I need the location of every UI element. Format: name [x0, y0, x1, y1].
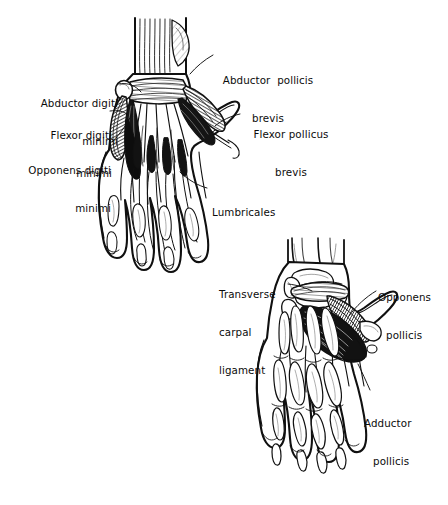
label-line: pollicis	[364, 455, 436, 468]
label-transverse-carpal-ligament: Transverse carpal ligament	[219, 263, 299, 402]
label-line: pollicis	[378, 329, 448, 342]
leader-abductor-pollicis-brevis	[190, 55, 213, 74]
label-line: Flexor pollicus	[243, 128, 339, 141]
label-opponens-pollicis: Opponens pollicis	[378, 266, 448, 367]
label-line: minimi	[8, 202, 111, 215]
label-line: Lumbricales	[212, 206, 302, 219]
label-line: Opponens	[378, 291, 448, 304]
anatomy-figure: Abductor digiti minimi Flexor digiti min…	[0, 0, 448, 505]
label-line: Opponens digiti	[8, 164, 111, 177]
label-line: Adductor	[364, 417, 436, 430]
label-line: brevis	[243, 166, 339, 179]
label-line: ligament	[219, 364, 299, 377]
label-lumbricales: Lumbricales	[212, 181, 302, 244]
label-line: Abductor pollicis	[216, 74, 320, 87]
label-line: Transverse	[219, 288, 299, 301]
label-opponens-digiti-minimi: Opponens digiti minimi	[8, 139, 111, 240]
label-line: carpal	[219, 326, 299, 339]
label-adductor-pollicis: Adductor pollicis	[364, 392, 436, 493]
